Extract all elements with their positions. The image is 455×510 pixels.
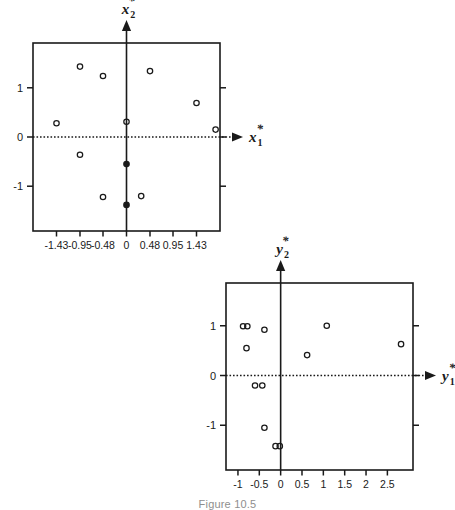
- x-tick-label: -1: [233, 478, 242, 490]
- x-tick-label: 0: [124, 239, 130, 251]
- data-point: [262, 425, 267, 430]
- y-axis-title: x2*: [121, 0, 136, 20]
- x-tick-label: 1.5: [337, 478, 352, 490]
- data-point: [138, 193, 143, 198]
- data-point: [324, 323, 329, 328]
- data-point: [100, 194, 105, 199]
- data-point: [260, 383, 265, 388]
- data-point: [304, 352, 309, 357]
- plot-frame: [226, 283, 413, 470]
- data-point: [398, 341, 403, 346]
- x-tick-label: -1.43: [45, 239, 69, 251]
- x-tick-label: 2: [363, 478, 369, 490]
- x-tick-label: -0.48: [91, 239, 115, 251]
- y-tick-label: -1: [13, 180, 23, 192]
- x-tick-label: -0.5: [250, 478, 268, 490]
- plot-x-star-scatter: -1.43-0.95-0.4800.480.951.43-101x2*x1*: [13, 0, 263, 251]
- data-point: [77, 64, 82, 69]
- x-tick-label: 2.5: [380, 478, 395, 490]
- y-tick-label: -1: [206, 419, 216, 431]
- data-point: [100, 73, 105, 78]
- x-tick-label: 0.48: [140, 239, 161, 251]
- x-tick-label: 1.43: [186, 239, 207, 251]
- data-point: [252, 383, 257, 388]
- data-point: [77, 152, 82, 157]
- x-tick-label: 1: [320, 478, 326, 490]
- data-point: [54, 121, 59, 126]
- data-point: [124, 202, 129, 207]
- x-axis-title: x1*: [248, 121, 264, 148]
- data-point: [262, 327, 267, 332]
- x-tick-label: 0.5: [295, 478, 310, 490]
- x-tick-label: -0.95: [68, 239, 92, 251]
- data-point: [194, 100, 199, 105]
- figure-caption: Figure 10.5: [0, 498, 455, 510]
- x-tick-label: 0: [278, 478, 284, 490]
- x-tick-label: 0.95: [163, 239, 184, 251]
- horizontal-axis-arrowhead: [232, 132, 243, 141]
- data-point: [147, 68, 152, 73]
- y-tick-label: 1: [210, 320, 216, 332]
- y-axis-title: y2*: [274, 233, 289, 260]
- plot-y-star-scatter: -1-0.500.511.522.5-101y2*y1*: [206, 233, 455, 490]
- horizontal-axis-arrowhead: [425, 371, 436, 380]
- x-axis-title: y1*: [440, 360, 455, 387]
- data-point: [124, 161, 129, 166]
- y-tick-label: 0: [17, 131, 23, 143]
- data-point: [244, 345, 249, 350]
- vertical-axis-arrowhead: [122, 20, 131, 31]
- data-point: [213, 127, 218, 132]
- y-tick-label: 1: [17, 82, 23, 94]
- y-tick-label: 0: [210, 370, 216, 382]
- vertical-axis-arrowhead: [276, 260, 285, 271]
